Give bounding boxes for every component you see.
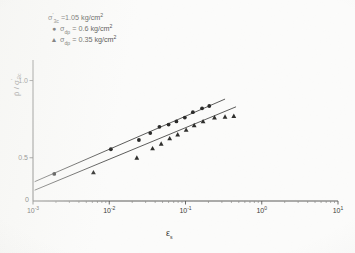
- data-point-circle: [52, 172, 56, 176]
- legend-header-value: =1.05 kg/cm: [59, 13, 100, 22]
- x-axis-tick-label: 10-2: [103, 205, 115, 214]
- data-point-triangle: [91, 170, 96, 174]
- legend-entry-triangle-label: σdp = 0.35 kg/cm2: [60, 34, 116, 46]
- data-point-triangle: [212, 115, 217, 119]
- data-point-triangle: [231, 114, 236, 118]
- data-point-circle: [175, 120, 179, 124]
- data-point-circle: [200, 106, 204, 110]
- data-point-circle: [148, 131, 152, 135]
- legend-entry-triangle: ▲ σdp = 0.35 kg/cm2: [48, 34, 116, 45]
- y-axis-label-separator: /: [12, 85, 21, 92]
- legend-entry-circle: ● σdp = 0.6 kg/cm2: [48, 23, 116, 34]
- data-point-circle: [158, 125, 162, 129]
- y-axis-label-prime: ': [10, 79, 16, 80]
- figure-page: 0.51.010-310-210-11001010 σ'3c =1.05 kg/…: [0, 0, 355, 253]
- filled-circle-icon: ●: [48, 25, 60, 32]
- data-point-triangle: [150, 146, 155, 150]
- data-point-triangle: [175, 132, 180, 136]
- legend: σ'3c =1.05 kg/cm2 ● σdp = 0.6 kg/cm2 ▲ σ…: [48, 12, 116, 45]
- series-fit-line: [35, 99, 225, 182]
- legend-entry-triangle-exponent: 2: [114, 34, 117, 40]
- legend-entry-circle-value: = 0.6 kg/cm: [70, 24, 109, 33]
- y-axis-label-numerator: p̄: [12, 92, 21, 96]
- x-axis-label-subscript: s: [170, 234, 173, 240]
- filled-triangle-icon: ▲: [48, 36, 60, 43]
- series-fit-line: [35, 107, 236, 190]
- x-axis-tick-label: 10-1: [179, 205, 191, 214]
- data-point-circle: [137, 138, 141, 142]
- data-point-circle: [109, 147, 113, 151]
- x-axis-tick-label: 100: [256, 205, 267, 214]
- y-axis-tick-label: 0.5: [18, 154, 28, 161]
- data-point-circle: [183, 116, 187, 120]
- data-point-triangle: [167, 136, 172, 140]
- x-axis-tick-label: 101: [333, 205, 344, 214]
- data-point-circle: [167, 123, 171, 127]
- legend-header-row: σ'3c =1.05 kg/cm2: [48, 12, 116, 23]
- x-axis-origin-label: 0: [25, 196, 29, 203]
- y-axis-label-denominator: σ: [12, 80, 21, 85]
- data-point-triangle: [223, 114, 228, 118]
- legend-entry-triangle-value: = 0.35 kg/cm: [70, 35, 113, 44]
- data-point-triangle: [134, 155, 139, 159]
- data-point-circle: [207, 104, 211, 108]
- y-axis-label: p̄ / σ'3c: [10, 73, 22, 96]
- legend-header-exponent: 2: [100, 12, 103, 18]
- data-point-triangle: [159, 141, 164, 145]
- x-axis-label: εs: [166, 228, 173, 240]
- legend-entry-circle-exponent: 2: [110, 23, 113, 29]
- x-axis-tick-label: 10-3: [27, 205, 39, 214]
- data-point-circle: [191, 110, 195, 114]
- y-axis-label-denominator-subscript: 3c: [16, 73, 22, 78]
